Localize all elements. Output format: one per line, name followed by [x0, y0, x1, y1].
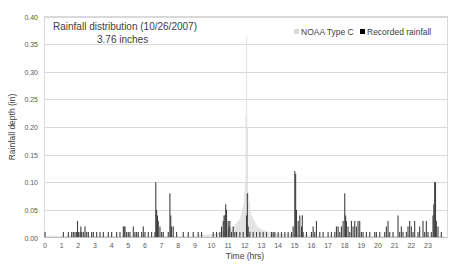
recorded-bar [111, 232, 112, 238]
recorded-bar [311, 232, 312, 238]
x-tick-label: 6 [143, 242, 147, 249]
recorded-bar [409, 221, 410, 238]
recorded-bar [116, 232, 117, 238]
x-tick-label: 12 [241, 242, 249, 249]
recorded-bar [411, 226, 412, 237]
recorded-bar [441, 232, 442, 238]
noaa-bar [254, 221, 255, 238]
x-tick-label: 14 [274, 242, 282, 249]
x-tick-label: 15 [291, 242, 299, 249]
recorded-bar [422, 221, 423, 238]
recorded-bar [293, 226, 294, 237]
recorded-bar [348, 226, 349, 237]
recorded-bar [436, 221, 437, 238]
recorded-bar [151, 232, 152, 238]
recorded-bar [134, 232, 135, 238]
recorded-bar [399, 232, 400, 238]
x-tick-label: 5 [126, 242, 130, 249]
x-tick-label: 8 [176, 242, 180, 249]
noaa-bar [237, 222, 238, 237]
noaa-bar [276, 233, 277, 237]
y-tick-label: 0.35 [24, 41, 38, 48]
noaa-bar [217, 233, 218, 238]
x-tick-label: 17 [324, 242, 332, 249]
noaa-bar [279, 234, 280, 238]
recorded-bar [353, 226, 354, 237]
x-tick-label: 11 [225, 242, 232, 249]
x-tick-label: 23 [424, 242, 432, 249]
recorded-bar [259, 232, 260, 238]
recorded-bar [303, 232, 304, 238]
recorded-bar [84, 226, 85, 237]
noaa-bar [282, 234, 283, 238]
recorded-bar [284, 232, 285, 238]
recorded-bar [356, 226, 357, 237]
recorded-bar [273, 232, 274, 238]
recorded-bar [336, 226, 337, 237]
x-tick-label: 4 [110, 242, 114, 249]
recorded-bar [143, 226, 144, 237]
recorded-bar [45, 232, 46, 238]
recorded-bar [392, 232, 393, 238]
x-tick-label: 1 [60, 242, 64, 249]
noaa-bar [261, 229, 262, 237]
recorded-bar [144, 232, 145, 238]
noaa-bar [245, 182, 246, 237]
noaa-bar [244, 193, 245, 237]
y-tick-label: 0.30 [24, 69, 38, 76]
x-tick-label: 22 [407, 242, 415, 249]
recorded-bar [354, 221, 355, 238]
recorded-bar [313, 226, 314, 237]
y-tick-label: 0.25 [24, 96, 38, 103]
recorded-bar [278, 232, 279, 238]
recorded-bar [163, 232, 164, 238]
y-tick-label: 0.10 [24, 179, 38, 186]
recorded-bar [253, 232, 254, 238]
noaa-bar [241, 213, 242, 238]
recorded-bar [346, 221, 347, 238]
recorded-bar [401, 226, 402, 237]
recorded-bar [359, 221, 360, 238]
noaa-bar [261, 230, 262, 238]
recorded-bar [361, 232, 362, 238]
recorded-bar [183, 232, 184, 238]
recorded-bar [176, 232, 177, 238]
recorded-bar [369, 232, 370, 238]
recorded-bar [256, 232, 257, 238]
noaa-bar [214, 234, 215, 238]
recorded-bar [138, 232, 139, 238]
recorded-bar [88, 232, 89, 238]
recorded-bar [426, 221, 427, 238]
recorded-bar [99, 232, 100, 238]
x-tick-label: 20 [374, 242, 382, 249]
noaa-bar [283, 234, 284, 238]
recorded-bar [243, 232, 244, 238]
recorded-bar [173, 226, 174, 237]
recorded-bar [417, 232, 418, 238]
recorded-bar [263, 232, 264, 238]
recorded-bar [78, 232, 79, 238]
recorded-bar [108, 232, 109, 238]
x-axis-title: Time (hrs) [226, 251, 265, 261]
recorded-bar [288, 232, 289, 238]
recorded-bar [198, 232, 199, 238]
recorded-bar [74, 232, 75, 238]
y-tick-label: 0.40 [24, 14, 38, 21]
recorded-bar [161, 232, 162, 238]
recorded-bar [412, 232, 413, 238]
recorded-bar [331, 232, 332, 238]
chart-title: Rainfall distribution (10/26/2007) [53, 21, 197, 32]
recorded-bar [349, 232, 350, 238]
x-tick-label: 9 [193, 242, 197, 249]
y-tick-label: 0.20 [24, 124, 38, 131]
recorded-bar [158, 221, 159, 238]
recorded-bar [274, 232, 275, 238]
recorded-bar [226, 210, 227, 238]
recorded-bar [402, 232, 403, 238]
recorded-bar [299, 215, 300, 237]
legend-label-noaa: NOAA Type C [301, 27, 354, 37]
recorded-bar [171, 226, 172, 237]
recorded-bar [366, 232, 367, 238]
recorded-bar [249, 232, 250, 238]
noaa-bar [280, 234, 281, 238]
